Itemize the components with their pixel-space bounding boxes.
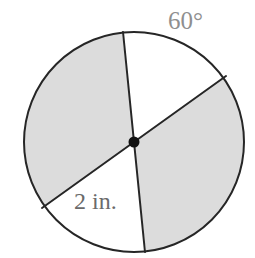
center-point-dot bbox=[129, 137, 140, 148]
angle-label: 60° bbox=[168, 8, 203, 33]
radius-label: 2 in. bbox=[74, 189, 117, 213]
circle-sector-figure: 60° 2 in. bbox=[0, 0, 255, 258]
circle-diagram-svg bbox=[0, 0, 255, 258]
